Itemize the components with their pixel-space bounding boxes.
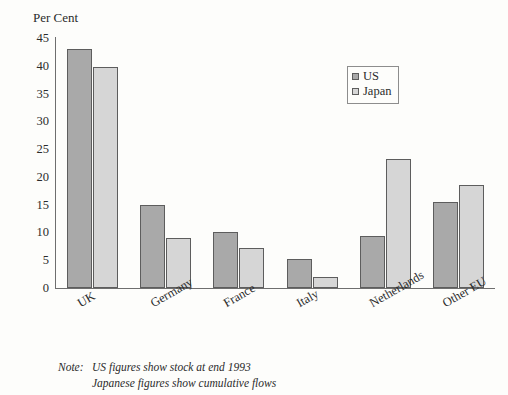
x-label-netherlands: Netherlands <box>367 268 427 311</box>
x-label-france: France <box>221 281 258 311</box>
us-swatch-icon <box>352 73 359 80</box>
bar-chart: Per Cent 051015202530354045 UKGermanyFra… <box>0 0 508 395</box>
note-line-2: Japanese figures show cumulative flows <box>92 376 276 392</box>
chart-note: Note:US figures show stock at end 1993 J… <box>58 360 276 391</box>
legend: US Japan <box>347 66 399 104</box>
note-label: Note: <box>58 360 92 376</box>
japan-swatch-icon <box>352 88 359 95</box>
legend-label-japan: Japan <box>363 84 391 99</box>
x-label-uk: UK <box>75 289 98 311</box>
legend-item-japan: Japan <box>352 84 391 99</box>
legend-label-us: US <box>363 69 379 84</box>
x-label-other-eu: Other EU <box>440 274 489 311</box>
note-line-1: US figures show stock at end 1993 <box>92 361 251 373</box>
x-label-germany: Germany <box>148 275 196 311</box>
x-axis-category-labels: UKGermanyFranceItalyNetherlandsOther EU <box>0 0 508 395</box>
x-label-italy: Italy <box>294 287 321 311</box>
legend-item-us: US <box>352 69 391 84</box>
